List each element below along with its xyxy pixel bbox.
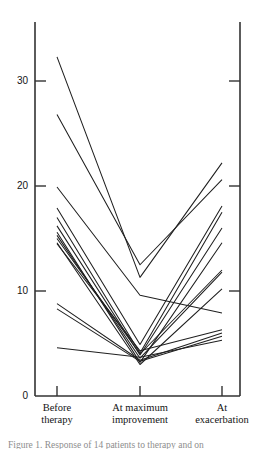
y-tick-label-0: 0: [8, 390, 28, 401]
x-tick-label-line2: exacerbation: [179, 414, 260, 426]
x-tick-label-line2: improvement: [97, 414, 183, 426]
x-tick-label-at-exacerbation: At exacerbation: [179, 402, 260, 426]
x-tick-label-at-maximum-improvement: At maximum improvement: [97, 402, 183, 426]
series-line: [57, 57, 222, 278]
figure-caption: Figure 1. Response of 14 patients to the…: [8, 440, 258, 449]
x-tick-label-line1: At: [179, 402, 260, 414]
line-chart-svg: [0, 0, 260, 449]
series-line: [57, 244, 222, 351]
y-tick-label-10: 10: [8, 285, 28, 296]
x-tick-label-line1: Before: [14, 402, 100, 414]
figure-panel: 30 20 10 0 Before therapy At maximum imp…: [0, 0, 260, 449]
x-tick-label-line2: therapy: [14, 414, 100, 426]
y-tick-label-30: 30: [8, 75, 28, 86]
series-line: [57, 243, 222, 365]
data-series: [57, 57, 222, 365]
series-line: [57, 115, 222, 265]
series-line: [57, 212, 222, 353]
x-tick-label-line1: At maximum: [97, 402, 183, 414]
x-tick-label-before-therapy: Before therapy: [14, 402, 100, 426]
y-tick-label-20: 20: [8, 180, 28, 191]
